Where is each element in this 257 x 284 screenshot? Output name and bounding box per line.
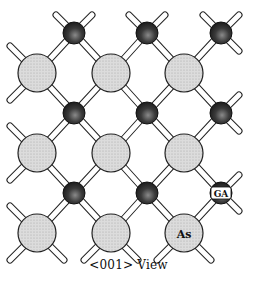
arsenic-atom bbox=[18, 214, 56, 252]
arsenic-atom bbox=[18, 54, 56, 92]
gallium-label: GA bbox=[214, 189, 230, 199]
arsenic-atoms-layer: As bbox=[18, 54, 203, 252]
gallium-atom bbox=[63, 102, 85, 124]
gallium-atom bbox=[63, 182, 85, 204]
arsenic-atom bbox=[92, 134, 130, 172]
gallium-atom bbox=[210, 22, 232, 44]
gallium-atom bbox=[136, 22, 158, 44]
arsenic-atom bbox=[165, 54, 203, 92]
gallium-atom bbox=[136, 102, 158, 124]
arsenic-label: As bbox=[176, 228, 192, 241]
arsenic-atom bbox=[18, 134, 56, 172]
gallium-atom: GA bbox=[210, 182, 232, 204]
gallium-atom bbox=[210, 102, 232, 124]
zincblende-lattice-diagram: As GA bbox=[0, 0, 257, 284]
gallium-atom bbox=[63, 22, 85, 44]
arsenic-atom bbox=[165, 134, 203, 172]
gallium-atom bbox=[136, 182, 158, 204]
arsenic-atom: As bbox=[165, 214, 203, 252]
view-caption: <001> View bbox=[0, 258, 257, 272]
arsenic-atom bbox=[92, 214, 130, 252]
arsenic-atom bbox=[92, 54, 130, 92]
